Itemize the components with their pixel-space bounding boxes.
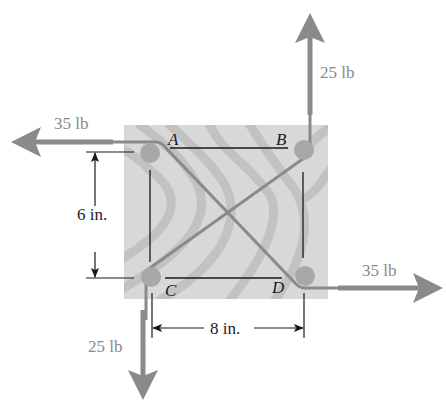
peg-C xyxy=(141,267,161,287)
force-label-D: 35 lb xyxy=(362,262,396,279)
force-label-C: 25 lb xyxy=(88,338,122,355)
peg-A xyxy=(140,143,160,163)
diagram-canvas: 35 lb 25 lb 25 lb 35 lb A B C D 6 in. 8 … xyxy=(0,0,446,411)
dimension-label-6in: 6 in. xyxy=(74,206,110,223)
peg-B xyxy=(294,140,314,160)
force-label-A: 35 lb xyxy=(54,115,88,132)
point-label-A: A xyxy=(168,131,178,148)
diagram-graphics xyxy=(0,0,446,411)
force-label-B: 25 lb xyxy=(320,64,354,81)
point-label-C: C xyxy=(165,282,176,299)
point-label-D: D xyxy=(272,279,284,296)
dimension-label-8in: 8 in. xyxy=(207,320,243,337)
point-label-B: B xyxy=(276,131,286,148)
peg-D xyxy=(295,266,315,286)
